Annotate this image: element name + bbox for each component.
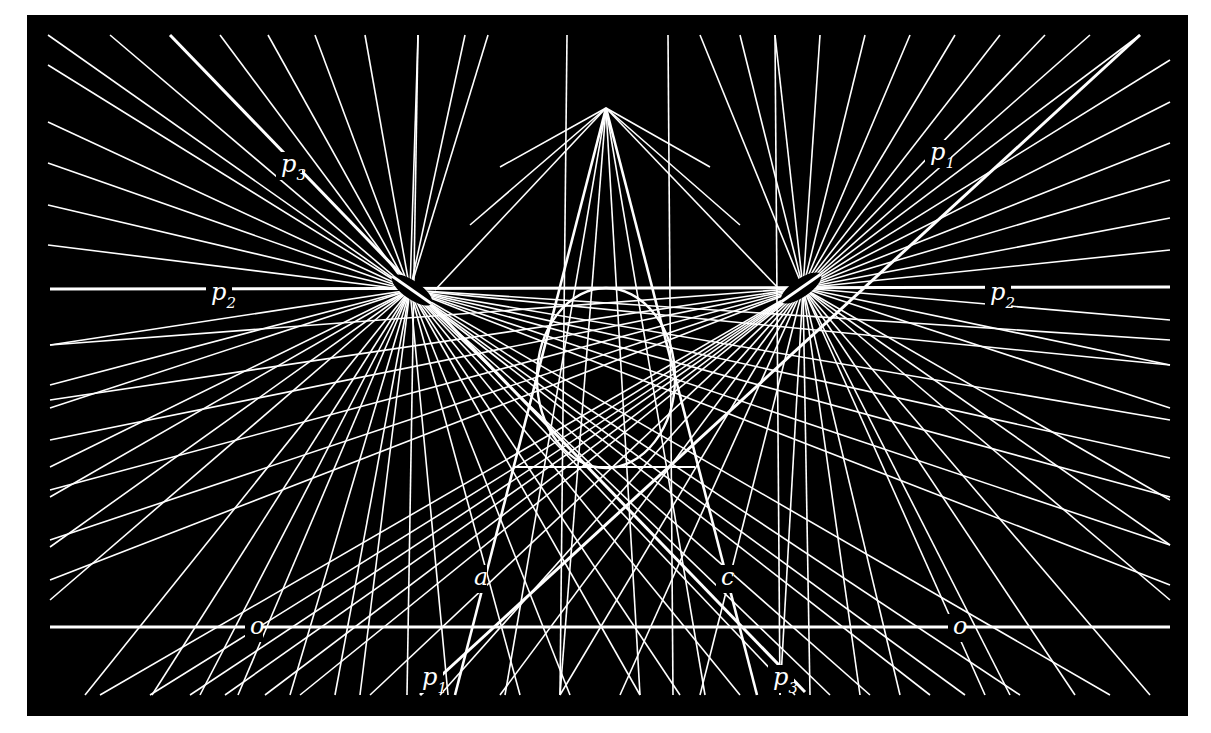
- label-o-right: o: [953, 612, 967, 640]
- label-o-left: o: [250, 612, 264, 640]
- projective-geometry-diagram: p3p1p2p2acoop1p3: [0, 0, 1211, 733]
- label-a: a: [474, 563, 488, 591]
- label-c: c: [721, 563, 734, 591]
